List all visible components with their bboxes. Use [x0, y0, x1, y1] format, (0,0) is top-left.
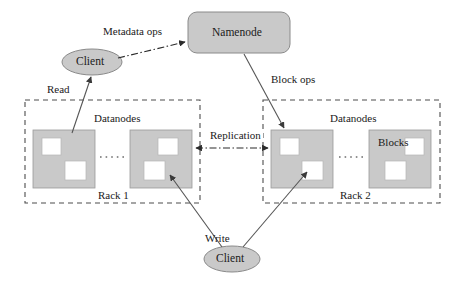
block	[144, 161, 165, 180]
client-top-label: Client	[76, 56, 104, 68]
metadata-ops-connector	[118, 42, 185, 58]
metadata-ops-label: Metadata ops	[103, 26, 162, 37]
block	[158, 138, 178, 155]
block	[385, 161, 406, 180]
hdfs-architecture-diagram: Namenode Client Client Metadata ops Bloc…	[0, 0, 462, 284]
replication-label: Replication	[208, 130, 263, 141]
rack-1-datanodes-label: Datanodes	[94, 113, 140, 124]
block-ops-connector	[244, 54, 284, 128]
block	[65, 161, 86, 180]
block	[42, 138, 61, 155]
namenode-label: Namenode	[212, 27, 262, 39]
rack-2-datanode-1	[271, 130, 333, 188]
blocks-label: Blocks	[378, 137, 409, 148]
rack-1-label: Rack 1	[98, 190, 129, 201]
block	[280, 138, 299, 155]
rack-1-datanode-2	[130, 130, 192, 188]
block-ops-label: Block ops	[271, 74, 315, 85]
block	[302, 161, 323, 180]
rack-1-datanode-1	[33, 130, 95, 188]
client-bottom-label: Client	[216, 253, 244, 265]
read-label: Read	[47, 84, 70, 95]
rack-2-label: Rack 2	[340, 190, 371, 201]
read-connector	[72, 77, 91, 133]
rack-2-datanodes-label: Datanodes	[330, 113, 376, 124]
write-label: Write	[205, 233, 230, 244]
